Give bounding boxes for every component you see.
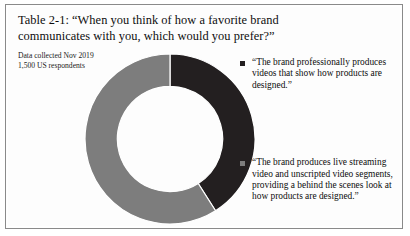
figure-title: Table 2-1: “When you think of how a favo…	[18, 13, 348, 44]
chart-legend: “The brand professionally produces video…	[240, 57, 402, 203]
figure-container: Table 2-1: “When you think of how a favo…	[5, 4, 403, 229]
legend-item-live-streaming: “The brand produces live streaming video…	[240, 157, 402, 203]
donut-chart-svg	[84, 50, 256, 228]
legend-item-professional-videos: “The brand professionally produces video…	[240, 57, 402, 91]
square-marker-gray-icon	[240, 161, 245, 166]
figure-inner: Table 2-1: “When you think of how a favo…	[8, 7, 400, 226]
legend-item-label: “The brand professionally produces video…	[252, 57, 386, 90]
donut-chart	[84, 50, 256, 228]
donut-slices	[85, 54, 255, 224]
square-marker-dark-icon	[240, 61, 245, 66]
legend-item-label: “The brand produces live streaming video…	[252, 157, 393, 201]
